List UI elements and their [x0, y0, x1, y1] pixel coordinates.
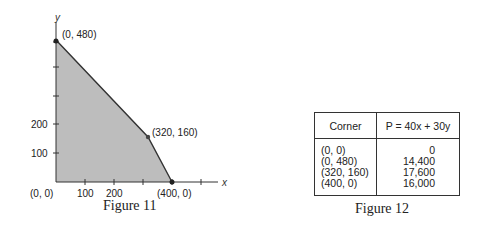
y-tick-label-100: 100 [31, 148, 48, 159]
table-body: (0, 0) (0, 480) (320, 160) (400, 0) 0 14… [315, 139, 459, 196]
vertex-point-320-160 [146, 135, 150, 139]
x-axis-label: x [221, 177, 228, 188]
table-header: Corner P = 40x + 30y [315, 113, 459, 139]
label-origin: (0, 0) [30, 188, 53, 199]
vertex-point-0-480 [54, 39, 59, 44]
table-cell-profit: 16,000 [377, 178, 435, 189]
table-cell-corner: (400, 0) [321, 178, 376, 189]
x-tick-label-100: 100 [77, 188, 94, 199]
y-tick-label-200: 200 [31, 119, 48, 130]
label-point-right: (400, 0) [157, 188, 191, 199]
header-profit: P = 40x + 30y [377, 113, 459, 138]
feasible-region [56, 40, 172, 182]
y-axis-label: y [54, 12, 61, 23]
label-point-top: (0, 480) [62, 29, 96, 40]
profit-column: 0 14,400 17,600 16,000 [377, 139, 459, 196]
figure-12-caption: Figure 12 [355, 201, 409, 217]
header-corner: Corner [315, 113, 377, 138]
corner-profit-table: Corner P = 40x + 30y (0, 0) (0, 480) (32… [314, 112, 460, 196]
figure-11-caption: Figure 11 [103, 198, 157, 214]
feasible-region-chart: y x (0, 480) (320, 160) (400, 0) (0, 0) … [0, 0, 250, 200]
figure-11: y x (0, 480) (320, 160) (400, 0) (0, 0) … [0, 0, 250, 228]
label-point-mid: (320, 160) [152, 127, 198, 138]
corner-column: (0, 0) (0, 480) (320, 160) (400, 0) [315, 139, 377, 196]
vertex-point-400-0 [170, 180, 175, 185]
